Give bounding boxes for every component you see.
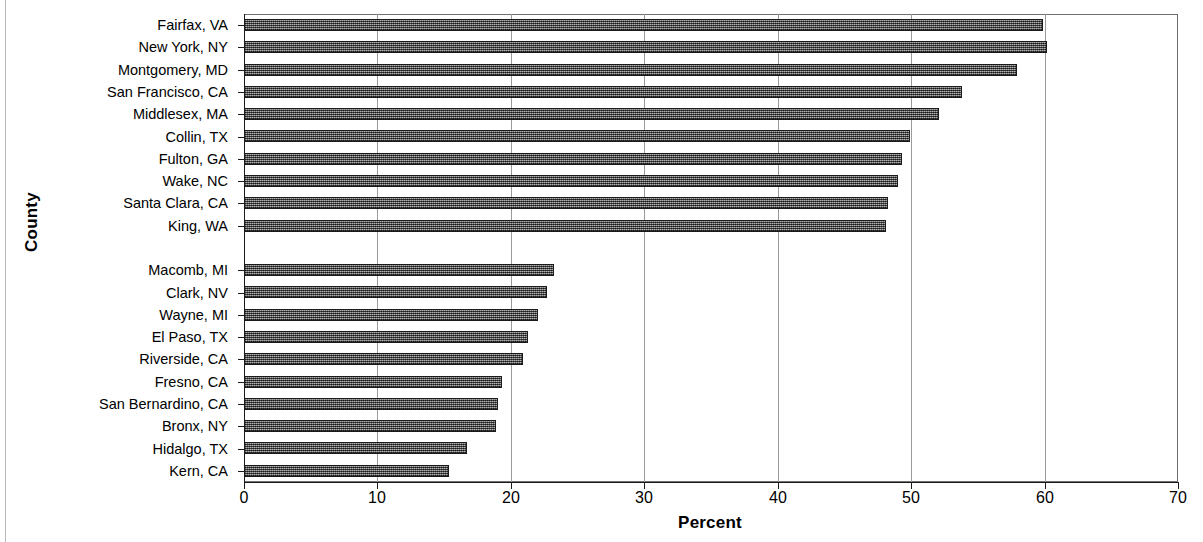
bar-row [244, 326, 1178, 348]
bar-row [244, 125, 1178, 147]
bar [244, 64, 1017, 76]
y-axis-tick [238, 226, 244, 227]
y-axis-tick [238, 270, 244, 271]
y-axis-tick [238, 159, 244, 160]
y-axis-title: County [22, 152, 42, 292]
y-axis-tick [238, 382, 244, 383]
x-axis-tick-label-10: 10 [347, 490, 407, 506]
bar [244, 442, 467, 454]
bar [244, 86, 962, 98]
bar-row [244, 81, 1178, 103]
x-axis-tick-label-70: 70 [1148, 490, 1203, 506]
x-axis-tick-label-60: 60 [1015, 490, 1075, 506]
bar [244, 309, 538, 321]
y-axis-tick [238, 114, 244, 115]
category-label: Wayne, MI [0, 308, 228, 323]
y-axis-tick [238, 25, 244, 26]
bar [244, 398, 498, 410]
y-axis-tick [238, 293, 244, 294]
bar-row [244, 371, 1178, 393]
bar-row [244, 170, 1178, 192]
bar-row [244, 393, 1178, 415]
bar [244, 153, 902, 165]
category-label: Riverside, CA [0, 352, 228, 367]
y-axis-tick [238, 426, 244, 427]
y-axis-tick [238, 47, 244, 48]
bar-row [244, 192, 1178, 214]
bar-row [244, 215, 1178, 237]
category-label: Montgomery, MD [0, 63, 228, 78]
bar [244, 108, 939, 120]
y-axis-tick [238, 337, 244, 338]
y-axis-line [244, 14, 245, 482]
x-axis-title: Percent [610, 513, 810, 533]
y-axis-tick [238, 404, 244, 405]
category-label: New York, NY [0, 40, 228, 55]
y-axis-tick [238, 315, 244, 316]
bar [244, 331, 528, 343]
category-label: Middlesex, MA [0, 107, 228, 122]
bar [244, 353, 523, 365]
horizontal-bar-chart: Fairfax, VANew York, NYMontgomery, MDSan… [0, 0, 1203, 542]
y-axis-tick [238, 471, 244, 472]
category-label: San Bernardino, CA [0, 397, 228, 412]
y-axis-tick [238, 92, 244, 93]
category-label: San Francisco, CA [0, 85, 228, 100]
bar-row [244, 281, 1178, 303]
bar [244, 220, 886, 232]
category-label: Kern, CA [0, 464, 228, 479]
bar-row [244, 304, 1178, 326]
bar-row [244, 148, 1178, 170]
y-axis-tick [238, 70, 244, 71]
category-label: Fresno, CA [0, 375, 228, 390]
category-label: Collin, TX [0, 130, 228, 145]
bar-row [244, 460, 1178, 482]
bar-row [244, 103, 1178, 125]
category-label: Bronx, NY [0, 419, 228, 434]
bar [244, 465, 449, 477]
category-label: El Paso, TX [0, 330, 228, 345]
x-axis-line [244, 482, 1179, 483]
y-axis-tick [238, 359, 244, 360]
x-axis-tick-label-40: 40 [748, 490, 808, 506]
bar [244, 420, 496, 432]
bar [244, 264, 554, 276]
bar-row [244, 259, 1178, 281]
bar [244, 286, 547, 298]
bar [244, 41, 1047, 53]
y-axis-tick [238, 203, 244, 204]
bars-layer [244, 14, 1178, 482]
category-label: Fairfax, VA [0, 18, 228, 33]
bar-row [244, 437, 1178, 459]
bar [244, 175, 898, 187]
bar-row [244, 348, 1178, 370]
x-axis-tick-label-20: 20 [481, 490, 541, 506]
x-axis-tick-label-0: 0 [214, 490, 274, 506]
category-label: Hidalgo, TX [0, 442, 228, 457]
y-axis-tick [238, 181, 244, 182]
bar [244, 197, 888, 209]
bar [244, 19, 1043, 31]
y-axis-tick [238, 449, 244, 450]
x-axis-tick-label-50: 50 [881, 490, 941, 506]
y-axis-tick [238, 137, 244, 138]
bar-row [244, 36, 1178, 58]
bar-row [244, 14, 1178, 36]
bar-row [244, 59, 1178, 81]
x-axis-tick-label-30: 30 [614, 490, 674, 506]
bar-row [244, 415, 1178, 437]
bar [244, 130, 910, 142]
bar [244, 376, 502, 388]
